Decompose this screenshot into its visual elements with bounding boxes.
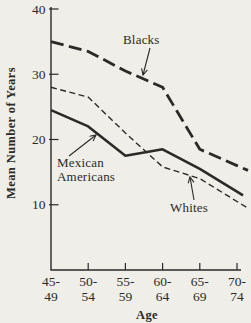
annotation-label: Blacks [123, 32, 160, 47]
y-tick-label: 40 [32, 2, 46, 17]
annotation-blacks: Blacks [123, 32, 160, 75]
annotation-arrow-icon [190, 177, 194, 200]
x-axis-title: Age [136, 308, 158, 322]
x-tick-label: 60-64 [154, 274, 173, 304]
annotation-arrow-icon [143, 48, 150, 75]
x-tick-label: 50-54 [79, 274, 98, 304]
x-tick-label: 70-74 [228, 274, 247, 304]
y-tick-label: 20 [32, 132, 46, 147]
x-tick-label: 65-69 [191, 274, 210, 304]
figure: Mean Number of Years Age 4030201045-4950… [0, 0, 251, 323]
annotation-arrow-icon [69, 135, 96, 156]
x-tick-label: 45-49 [42, 274, 61, 304]
annotation-label: Whites [170, 200, 208, 215]
y-axis-title: Mean Number of Years [4, 67, 18, 199]
annotation-whites: Whites [170, 177, 208, 215]
chart-svg: Mean Number of Years Age 4030201045-4950… [0, 0, 251, 323]
y-tick-label: 30 [32, 67, 46, 82]
series-line-whites [51, 87, 248, 208]
annotation-label: Americans [57, 169, 115, 184]
x-tick-label: 55-59 [116, 274, 135, 304]
y-tick-label: 10 [32, 197, 46, 212]
